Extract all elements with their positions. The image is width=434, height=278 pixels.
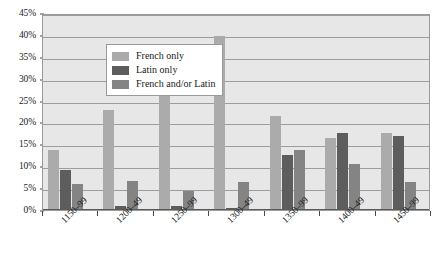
- x-axis-tick-mark: [375, 211, 376, 216]
- legend-item-french-and-or-latin: French and/or Latin: [112, 77, 215, 91]
- legend-swatch-french-and-or-latin: [112, 80, 129, 89]
- legend-label-french-only: French only: [136, 51, 184, 61]
- x-axis-tick-mark: [430, 211, 431, 216]
- x-axis-tick-mark: [264, 211, 265, 216]
- bar: [325, 138, 336, 210]
- bar: [159, 94, 170, 210]
- y-axis: 45%40%35%30%25%20%15%10%5%0%: [0, 14, 40, 211]
- bar-group: [376, 15, 430, 210]
- bar: [393, 136, 404, 210]
- plot-area: French only Latin only French and/or Lat…: [42, 14, 430, 211]
- bar: [337, 133, 348, 210]
- y-axis-tick-label: 45%: [19, 9, 36, 19]
- bar: [381, 133, 392, 210]
- legend-label-latin-only: Latin only: [136, 65, 177, 75]
- bar-group: [265, 15, 320, 210]
- y-axis-tick-label: 25%: [19, 97, 36, 107]
- legend-swatch-french-only: [112, 52, 129, 61]
- x-axis-tick-mark: [42, 211, 43, 216]
- x-axis-tick-mark: [97, 211, 98, 216]
- legend-swatch-latin-only: [112, 66, 129, 75]
- x-axis-tick-mark: [319, 211, 320, 216]
- y-axis-tick-label: 20%: [19, 119, 36, 129]
- x-axis-tick-mark: [208, 211, 209, 216]
- y-axis-tick-label: 10%: [19, 162, 36, 172]
- bar: [103, 110, 114, 210]
- y-axis-tick-label: 30%: [19, 75, 36, 85]
- y-axis-tick-label: 40%: [19, 31, 36, 41]
- legend-item-french-only: French only: [112, 49, 215, 63]
- bar-group: [320, 15, 375, 210]
- x-axis-tick-mark: [153, 211, 154, 216]
- bar-group: [43, 15, 98, 210]
- bar: [60, 170, 71, 210]
- bar: [270, 116, 281, 210]
- chart-legend: French only Latin only French and/or Lat…: [106, 44, 223, 96]
- bar-chart: 45%40%35%30%25%20%15%10%5%0% French only…: [0, 0, 434, 278]
- y-axis-tick-label: 15%: [19, 141, 36, 151]
- legend-label-french-and-or-latin: French and/or Latin: [136, 79, 215, 89]
- legend-item-latin-only: Latin only: [112, 63, 215, 77]
- bars-layer: [43, 15, 429, 210]
- bar: [282, 155, 293, 210]
- y-axis-tick-label: 35%: [19, 53, 36, 63]
- bar: [48, 150, 59, 210]
- y-axis-tick-label: 0%: [24, 206, 36, 216]
- y-axis-tick-label: 5%: [24, 184, 36, 194]
